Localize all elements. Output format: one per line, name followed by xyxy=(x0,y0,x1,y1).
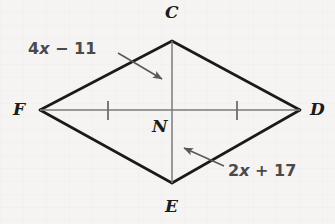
vertex-label-d: D xyxy=(310,101,325,118)
vertex-label-f: F xyxy=(13,101,25,118)
label-segment-ne-measure: 2x + 17 xyxy=(228,163,296,179)
expr-coefficient-ne: 2 xyxy=(228,161,239,180)
vertex-label-c: C xyxy=(165,4,179,21)
label-segment-cn-measure: 4x − 11 xyxy=(28,41,96,57)
vertex-label-e: E xyxy=(165,198,178,215)
expr-variable-cn: x xyxy=(39,39,49,58)
vertex-label-n: N xyxy=(152,118,168,135)
edge-c-d xyxy=(172,41,300,110)
expr-variable-ne: x xyxy=(239,161,249,180)
geometry-figure: C F D E N 4x − 11 2x + 17 xyxy=(0,0,335,224)
expr-constant-cn: − 11 xyxy=(49,39,96,58)
expr-coefficient-cn: 4 xyxy=(28,39,39,58)
expr-constant-ne: + 17 xyxy=(249,161,296,180)
geometry-canvas xyxy=(0,0,335,224)
